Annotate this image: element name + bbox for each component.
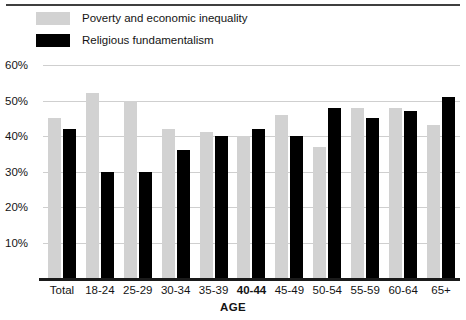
bar (63, 129, 76, 278)
x-axis-tick-label: 55-59 (346, 284, 384, 296)
bar (404, 111, 417, 278)
x-axis-title: AGE (0, 301, 466, 313)
x-axis-tick-label: 35-39 (195, 284, 233, 296)
bar (442, 97, 455, 278)
bar-group (422, 65, 460, 278)
bar (290, 136, 303, 278)
y-axis-tick-label: 50% (5, 95, 39, 107)
bar (275, 115, 288, 278)
bar (177, 150, 190, 278)
bar-group (270, 65, 308, 278)
bar-group (308, 65, 346, 278)
x-axis-labels: Total18-2425-2930-3435-3940-4445-4950-54… (43, 284, 460, 296)
bar-group (346, 65, 384, 278)
bar-group (384, 65, 422, 278)
bar-groups (43, 65, 460, 278)
bar (86, 93, 99, 278)
bar-group (157, 65, 195, 278)
x-axis-tick-label: 65+ (422, 284, 460, 296)
bar (124, 101, 137, 279)
bar (351, 108, 364, 278)
bar-group (119, 65, 157, 278)
bar (101, 172, 114, 279)
bar-group (81, 65, 119, 278)
bar (328, 108, 341, 278)
bar (48, 118, 61, 278)
y-axis-tick-label: 30% (5, 166, 39, 178)
x-axis-tick-label: 18-24 (81, 284, 119, 296)
y-axis-tick-label: 40% (5, 130, 39, 142)
bar (215, 136, 228, 278)
bar (427, 125, 440, 278)
bar (162, 129, 175, 278)
bar (366, 118, 379, 278)
y-axis-tick-label: 10% (5, 237, 39, 249)
y-axis-tick-label: 60% (5, 59, 39, 71)
x-axis-tick-label: 40-44 (233, 284, 271, 296)
bar (200, 132, 213, 278)
x-axis-tick-label: 25-29 (119, 284, 157, 296)
x-axis-tick-label: 45-49 (270, 284, 308, 296)
bar (252, 129, 265, 278)
bar-group (195, 65, 233, 278)
x-axis-tick-label: Total (43, 284, 81, 296)
bar-group (233, 65, 271, 278)
x-axis-tick-label: 30-34 (157, 284, 195, 296)
bar (313, 147, 326, 278)
y-axis-tick-label: 20% (5, 201, 39, 213)
bar (139, 172, 152, 279)
bar-chart: Poverty and economic inequality Religiou… (0, 0, 466, 320)
x-axis-tick-label: 50-54 (308, 284, 346, 296)
x-axis-tick-label: 60-64 (384, 284, 422, 296)
bar (237, 136, 250, 278)
bar-group (43, 65, 81, 278)
bar (389, 108, 402, 278)
x-axis-line (39, 278, 460, 281)
